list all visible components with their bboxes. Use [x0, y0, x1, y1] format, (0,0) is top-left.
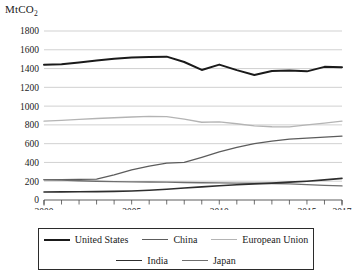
chart-legend: United States China European Union India…	[38, 228, 314, 270]
plot-svg: 0200400600800100012001400160018002000200…	[0, 20, 353, 210]
unit-label-text: MtCO	[5, 3, 34, 15]
x-axis-tick-label: 2000	[35, 207, 54, 210]
y-axis-tick-label: 800	[25, 120, 40, 130]
y-axis-tick-label: 1600	[20, 45, 39, 55]
y-axis-tick-label: 200	[25, 177, 40, 187]
legend-row-1: United States China European Union	[39, 229, 313, 250]
legend-label-japan: Japan	[213, 256, 236, 266]
y-axis-tick-label: 1400	[20, 64, 39, 74]
legend-item-china[interactable]: China	[142, 235, 197, 245]
legend-item-united-states[interactable]: United States	[44, 235, 129, 245]
x-axis-tick-label: 2005	[122, 207, 141, 210]
y-axis-tick-label: 1000	[20, 102, 39, 112]
series-line-united-states	[44, 57, 342, 75]
legend-label-european-union: European Union	[242, 235, 308, 245]
y-axis-tick-label: 600	[25, 139, 40, 149]
unit-label-subscript: 2	[34, 9, 38, 18]
legend-item-european-union[interactable]: European Union	[211, 235, 308, 245]
x-axis-tick-label: 2010	[210, 207, 229, 210]
legend-label-united-states: United States	[75, 235, 129, 245]
series-line-european-union	[44, 116, 342, 127]
legend-swatch-china	[142, 239, 168, 240]
series-line-china	[44, 136, 342, 179]
legend-label-india: India	[147, 256, 168, 266]
legend-swatch-european-union	[211, 239, 237, 240]
legend-item-india[interactable]: India	[116, 256, 168, 266]
series-line-japan	[44, 180, 342, 186]
co2-emissions-line-chart: MtCO2 0200400600800100012001400160018002…	[0, 0, 353, 278]
x-axis-tick-label: 2017	[333, 207, 352, 210]
legend-swatch-india	[116, 260, 142, 261]
y-axis-tick-label: 1800	[20, 26, 39, 36]
x-axis-tick-label: 2015	[297, 207, 316, 210]
legend-swatch-japan	[182, 260, 208, 261]
y-axis-tick-label: 1200	[20, 83, 39, 93]
legend-swatch-united-states	[44, 239, 70, 241]
y-axis-tick-label: 0	[34, 195, 39, 205]
y-axis-tick-label: 400	[25, 158, 40, 168]
legend-label-china: China	[173, 235, 197, 245]
legend-item-japan[interactable]: Japan	[182, 256, 236, 266]
plot-area: 0200400600800100012001400160018002000200…	[0, 20, 353, 210]
y-axis-unit-label: MtCO2	[5, 3, 38, 18]
legend-row-2: India Japan	[39, 250, 313, 271]
